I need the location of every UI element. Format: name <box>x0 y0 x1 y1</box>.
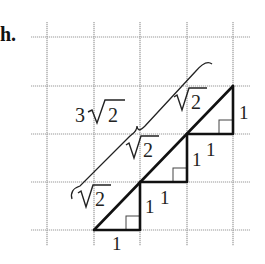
hyp-label-1-radicand: 2 <box>95 188 105 210</box>
hyp-label-2-radicand: 2 <box>143 139 153 161</box>
leg-label-horizontal-2: 1 <box>160 187 170 208</box>
radical-sign-total <box>88 100 125 123</box>
total-radicand: 2 <box>108 104 118 126</box>
leg-label-vertical-2: 1 <box>192 149 202 170</box>
leg-label-horizontal-3: 1 <box>206 139 216 160</box>
right-angle-marker <box>219 120 233 134</box>
right-angle-marker <box>126 216 140 230</box>
leg-label-vertical-3: 1 <box>239 102 249 123</box>
staircase-diagram: h. 3 2 2 2 2 <box>0 0 265 264</box>
part-label: h. <box>0 23 16 45</box>
total-coefficient: 3 <box>75 104 85 126</box>
leg-label-vertical-1: 1 <box>145 196 155 217</box>
leg-label-bottom: 1 <box>112 233 122 254</box>
hyp-label-3-radicand: 2 <box>191 91 201 113</box>
right-angle-marker <box>173 168 187 182</box>
